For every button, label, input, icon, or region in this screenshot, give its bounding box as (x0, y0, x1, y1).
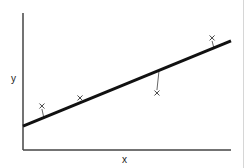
frame-edge (243, 0, 244, 168)
data-point-x-marker-icon (39, 104, 44, 109)
residual-line (157, 71, 159, 90)
x-axis-label: x (122, 154, 127, 165)
data-point-x-marker-icon (77, 95, 82, 100)
scatter-plot-with-regression (0, 0, 247, 168)
data-point-x-marker-icon (154, 91, 159, 96)
data-points (39, 35, 214, 108)
data-point-x-marker-icon (210, 35, 215, 40)
regression-line (23, 41, 231, 126)
y-axis-label: y (11, 73, 16, 84)
axes (23, 13, 231, 150)
